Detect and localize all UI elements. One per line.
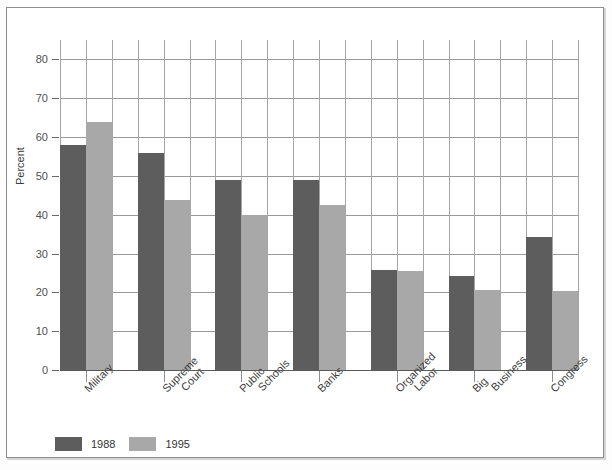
y-tick-mark <box>52 176 59 177</box>
y-tick-label: 0 <box>42 364 48 376</box>
y-tick-mark <box>52 137 59 138</box>
y-tick-mark <box>52 370 59 371</box>
legend-swatch-1988 <box>55 437 82 451</box>
y-tick-mark <box>52 331 59 332</box>
y-tick-label: 60 <box>36 131 48 143</box>
gridline-x-11 <box>345 40 346 370</box>
gridline-x-20 <box>578 40 579 370</box>
y-tick-label: 30 <box>36 248 48 260</box>
gridline-x-17 <box>500 40 501 370</box>
y-tick-mark <box>52 98 59 99</box>
y-tick-mark <box>52 254 59 255</box>
legend-swatch-1995 <box>129 437 156 451</box>
bar-public-schools-1988[interactable] <box>215 180 241 370</box>
bar-military-1988[interactable] <box>60 145 86 370</box>
y-tick-label: 80 <box>36 53 48 65</box>
chart-legend: 19881995 <box>55 437 190 451</box>
y-tick-label: 40 <box>36 209 48 221</box>
y-tick-mark <box>52 59 59 60</box>
y-tick-label: 50 <box>36 170 48 182</box>
gridline-x-2 <box>112 40 113 370</box>
bar-military-1995[interactable] <box>86 122 112 370</box>
legend-item-1995[interactable]: 1995 <box>129 437 189 451</box>
bar-public-schools-1995[interactable] <box>241 215 267 370</box>
y-tick-label: 20 <box>36 286 48 298</box>
bar-chart-figure: Percent 01020304050607080 MilitarySuprem… <box>0 0 612 470</box>
bar-banks-1995[interactable] <box>319 205 345 370</box>
legend-label-1995: 1995 <box>165 438 189 450</box>
y-tick-mark <box>52 292 59 293</box>
y-tick-label: 70 <box>36 92 48 104</box>
bar-supreme-court-1995[interactable] <box>164 200 190 370</box>
bar-organized-labor-1995[interactable] <box>397 271 423 370</box>
gridline-x-8 <box>267 40 268 370</box>
legend-label-1988: 1988 <box>91 438 115 450</box>
y-tick-mark <box>52 215 59 216</box>
gridline-x-5 <box>190 40 191 370</box>
bar-banks-1988[interactable] <box>293 180 319 370</box>
gridline-x-14 <box>423 40 424 370</box>
bar-congress-1988[interactable] <box>526 237 552 370</box>
x-axis-baseline <box>60 370 578 371</box>
y-tick-label: 10 <box>36 325 48 337</box>
y-axis-title: Percent <box>14 147 26 185</box>
legend-item-1988[interactable]: 1988 <box>55 437 115 451</box>
plot-area: 01020304050607080 MilitarySupremeCourtPu… <box>60 40 578 370</box>
bar-big-business-1988[interactable] <box>449 276 474 370</box>
bar-organized-labor-1988[interactable] <box>371 270 397 370</box>
bar-supreme-court-1988[interactable] <box>138 153 164 370</box>
